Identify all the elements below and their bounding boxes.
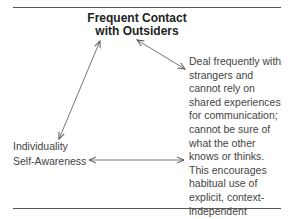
arrows-layer	[0, 0, 296, 219]
arrow-top-to-left	[59, 41, 100, 139]
arrow-top-to-description	[137, 40, 185, 69]
bottom-rule	[13, 208, 281, 209]
